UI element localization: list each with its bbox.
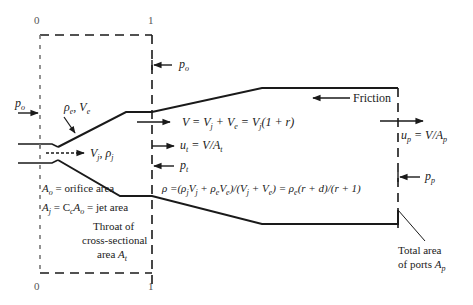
po-inlet-label: po [14, 96, 25, 112]
throat-note-line3: area At [97, 248, 128, 263]
jet-pump-diagram: 0 1 0 1 po ρe, Ve Vj, ρj po V = Vj + Ve … [0, 0, 473, 305]
ports-note-line1: Total area [398, 244, 442, 256]
ports-leader-line [398, 210, 425, 241]
orifice-area-note: Ao = orifice area [41, 182, 114, 197]
control-volume-box [40, 35, 152, 290]
throat-note-line1: Throat of [93, 220, 135, 232]
density-equation: ρ =(ρjVj + ρeVe)/(Vj + Ve) = ρe(r + d)/(… [161, 182, 361, 197]
po-station1-label: po [178, 57, 189, 73]
station-1-top-label: 1 [148, 14, 154, 26]
pp-label: pp [424, 169, 435, 185]
ut-equation: ut = V/At [180, 138, 223, 154]
friction-label: Friction [353, 91, 391, 105]
up-equation: up = V/Ap [401, 128, 447, 144]
jet-label: Vj, ρj [90, 146, 114, 162]
station-0-bottom-label: 0 [34, 280, 40, 292]
entrained-flow-arrow [64, 117, 75, 133]
entrained-flow-label: ρe, Ve [63, 100, 91, 116]
pt-label: pt [179, 158, 189, 174]
jet-area-note: Aj = CcAo = jet area [41, 201, 128, 216]
station-0-top-label: 0 [34, 14, 40, 26]
velocity-equation: V = Vj + Ve = Vj(1 + r) [182, 115, 294, 131]
throat-note-line2: cross-sectional [82, 234, 147, 246]
ports-note-line2: of ports Ap [398, 258, 445, 273]
